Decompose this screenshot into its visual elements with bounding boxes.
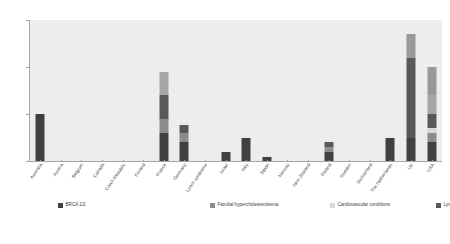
x-axis-tick-mark <box>226 160 227 162</box>
plot-area <box>30 20 442 161</box>
bar-slot <box>277 20 298 161</box>
bar-slot <box>318 20 339 161</box>
x-axis-tick-mark <box>349 160 350 162</box>
stacked-bar[interactable] <box>180 125 189 161</box>
bar-segment <box>427 142 436 161</box>
legend-item[interactable]: Familial hypercholesterolemia <box>210 200 330 211</box>
x-axis-tick-label: Finland <box>135 163 147 178</box>
bar-segment <box>159 119 168 133</box>
x-axis-label-slot: Australia <box>30 162 51 206</box>
bar-segment <box>427 95 436 114</box>
bar-slot <box>215 20 236 161</box>
x-axis-tick-mark <box>411 160 412 162</box>
x-axis-tick-mark <box>287 160 288 162</box>
x-axis-tick-mark <box>61 160 62 162</box>
y-axis-tick-mark <box>26 114 30 115</box>
stacked-bar[interactable] <box>159 72 168 161</box>
stacked-bar-chart: 051015 AustraliaAustriaBelgiumCanadaCzec… <box>0 0 450 244</box>
bars-layer <box>30 20 442 161</box>
bar-slot <box>174 20 195 161</box>
x-axis-tick-label: USA <box>426 163 435 173</box>
x-axis-tick-mark <box>370 160 371 162</box>
x-axis-tick-mark <box>329 160 330 162</box>
bar-slot <box>92 20 113 161</box>
stacked-bar[interactable] <box>242 138 251 162</box>
x-axis-tick-mark <box>164 160 165 162</box>
bar-slot <box>154 20 175 161</box>
x-axis-tick-label: UK <box>407 163 414 171</box>
bar-slot <box>380 20 401 161</box>
bar-segment <box>159 72 168 96</box>
x-axis-tick-label: Belgium <box>72 163 85 179</box>
x-axis-tick-label: Italy <box>241 163 250 173</box>
y-axis-tick-mark <box>26 20 30 21</box>
bar-segment <box>386 138 395 162</box>
legend-label: BRCA 1/2 <box>66 203 86 208</box>
stacked-bar[interactable] <box>407 34 416 161</box>
bar-segment <box>407 138 416 162</box>
x-axis-tick-label: Japan <box>260 163 271 176</box>
bar-segment <box>427 67 436 95</box>
x-axis-tick-label: Canada <box>93 163 106 179</box>
bar-slot <box>339 20 360 161</box>
legend-label: Lynch syndrome <box>444 203 450 208</box>
x-axis-tick-mark <box>40 160 41 162</box>
bar-slot <box>51 20 72 161</box>
y-axis-tick-mark <box>26 67 30 68</box>
bar-segment <box>180 125 189 133</box>
bar-slot <box>257 20 278 161</box>
stacked-bar[interactable] <box>427 67 436 161</box>
stacked-bar[interactable] <box>386 138 395 162</box>
x-axis-tick-label: Germany <box>174 163 189 181</box>
legend-item[interactable]: Lynch syndrome <box>436 200 450 211</box>
legend-swatch-icon <box>210 203 215 208</box>
bar-segment <box>180 133 189 142</box>
x-axis-tick-label: Switzerland <box>356 163 373 185</box>
x-axis-tick-mark <box>184 160 185 162</box>
bar-segment <box>427 114 436 128</box>
stacked-bar[interactable] <box>36 114 45 161</box>
legend-label: Cardiovascular conditions <box>338 203 391 208</box>
legend-swatch-icon <box>330 203 335 208</box>
x-axis-tick-mark <box>143 160 144 162</box>
bar-slot <box>112 20 133 161</box>
bar-slot <box>421 20 442 161</box>
x-axis-tick-label: Australia <box>30 163 44 180</box>
x-axis-tick-label: Poland <box>320 163 332 177</box>
x-axis-tick-mark <box>246 160 247 162</box>
bar-slot <box>360 20 381 161</box>
x-axis-tick-label: Israel <box>219 163 229 175</box>
bar-segment <box>427 133 436 142</box>
x-axis-tick-mark <box>102 160 103 162</box>
bar-slot <box>236 20 257 161</box>
bar-segment <box>159 133 168 161</box>
bar-segment <box>407 34 416 58</box>
legend-label: Familial hypercholesterolemia <box>218 203 279 208</box>
x-axis-tick-mark <box>81 160 82 162</box>
x-axis-tick-label: France <box>156 163 168 177</box>
x-axis-tick-mark <box>432 160 433 162</box>
bar-slot <box>30 20 51 161</box>
chart-legend: BRCA 1/2Familial hypercholesterolemiaCar… <box>58 200 436 238</box>
bar-segment <box>36 114 45 161</box>
bar-slot <box>71 20 92 161</box>
bar-segment <box>242 138 251 162</box>
bar-slot <box>195 20 216 161</box>
bar-segment <box>180 142 189 161</box>
bar-slot <box>298 20 319 161</box>
stacked-bar[interactable] <box>324 142 333 161</box>
bar-segment <box>159 95 168 119</box>
bar-slot <box>401 20 422 161</box>
bar-slot <box>133 20 154 161</box>
x-axis-tick-label: Norway <box>279 163 292 178</box>
x-axis-tick-mark <box>308 160 309 162</box>
legend-swatch-icon <box>436 203 441 208</box>
legend-swatch-icon <box>58 203 63 208</box>
bar-segment <box>407 58 416 138</box>
x-axis-tick-label: Austria <box>53 163 65 177</box>
x-axis-tick-mark <box>123 160 124 162</box>
legend-item[interactable]: Cardiovascular conditions <box>330 200 436 211</box>
legend-item[interactable]: BRCA 1/2 <box>58 200 210 211</box>
x-axis-tick-label: Sweden <box>340 163 353 179</box>
x-axis-tick-mark <box>390 160 391 162</box>
